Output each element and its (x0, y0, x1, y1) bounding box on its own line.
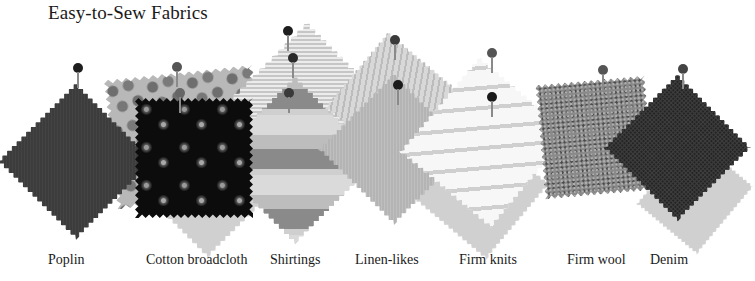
label-denim: Denim (650, 252, 688, 268)
pin-icon (175, 88, 185, 98)
label-poplin: Poplin (48, 252, 85, 268)
pin-icon (487, 92, 497, 102)
label-linen-likes: Linen-likes (355, 252, 419, 268)
label-cotton-broadcloth: Cotton broadcloth (146, 252, 248, 268)
pin-icon (678, 64, 688, 74)
label-firm-knits: Firm knits (459, 252, 517, 268)
label-shirtings: Shirtings (270, 252, 321, 268)
pin-icon (283, 26, 293, 36)
pin-icon (172, 62, 182, 72)
pin-icon (390, 35, 400, 45)
pin-icon (284, 88, 294, 98)
label-firm-wool: Firm wool (567, 252, 626, 268)
pin-icon (288, 53, 298, 63)
pin-icon (73, 63, 83, 73)
pin-icon (598, 65, 608, 75)
swatch-cotton-broadcloth (135, 98, 253, 218)
pin-icon (487, 48, 497, 58)
pin-icon (393, 80, 403, 90)
